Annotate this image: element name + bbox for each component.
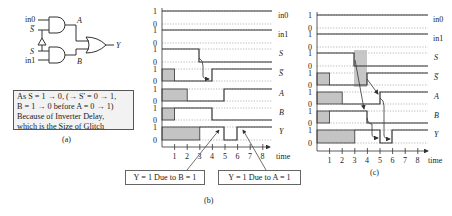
svg-text:1: 1: [173, 152, 177, 161]
svg-text:8: 8: [416, 156, 420, 165]
svg-text:Y: Y: [279, 127, 285, 136]
svg-text:1: 1: [153, 26, 157, 35]
svg-text:1: 1: [153, 85, 157, 94]
svg-text:1: 1: [308, 107, 312, 116]
svg-text:6: 6: [391, 156, 395, 165]
svg-text:B: B: [434, 111, 439, 120]
svg-text:in1: in1: [433, 34, 443, 43]
svg-text:7: 7: [403, 156, 407, 165]
timing-diagram-c: [317, 12, 428, 154]
callout-y-due-to-a: Y = 1 Due to A = 1: [218, 170, 301, 185]
svg-text:S̅: S̅: [434, 73, 439, 82]
gate-output-b: B: [77, 57, 82, 66]
caption-a: (a): [62, 135, 71, 144]
timing-diagram-b: [162, 8, 272, 170]
svg-text:1: 1: [328, 156, 332, 165]
svg-text:A: A: [433, 92, 439, 101]
svg-text:1: 1: [308, 49, 312, 58]
note-line: As S = 1 → 0, (→ S' = 0 → 1,: [17, 92, 130, 102]
svg-text:1: 1: [308, 69, 312, 78]
inverter-icon: [38, 38, 46, 45]
x-tick-labels-c: 1 2 3 4 5 6 7 8 time: [328, 156, 443, 165]
svg-text:1: 1: [153, 123, 157, 132]
circuit-schematic: [38, 17, 114, 63]
svg-text:4: 4: [365, 156, 369, 165]
svg-text:3: 3: [198, 152, 202, 161]
svg-text:1: 1: [153, 65, 157, 74]
circuit-output-y: Y: [116, 41, 122, 50]
svg-text:Y: Y: [434, 130, 440, 139]
note-line: Because of Inverter Delay,: [17, 112, 130, 122]
callout-y-due-to-b: Y = 1 Due to B = 1: [125, 170, 205, 185]
or-gate-icon: [86, 37, 106, 53]
input-label-in1: in1: [25, 56, 35, 65]
svg-text:0: 0: [308, 139, 312, 148]
and-gate-b-icon: [49, 47, 65, 63]
glitch-explanation-box: As S = 1 → 0, (→ S' = 0 → 1, B = 1 → 0 b…: [13, 90, 134, 130]
svg-text:2: 2: [185, 152, 189, 161]
svg-text:0: 0: [153, 136, 157, 145]
svg-text:1: 1: [153, 7, 157, 16]
svg-text:1: 1: [308, 11, 312, 20]
signal-labels-b: in0 in1 S S̅ A B Y: [278, 11, 288, 136]
svg-text:8: 8: [261, 152, 265, 161]
svg-text:S: S: [279, 49, 283, 58]
note-line: B = 1 → 0 before A = 0 → 1): [17, 102, 130, 112]
svg-text:1: 1: [153, 45, 157, 54]
input-label-s: S: [30, 47, 34, 56]
svg-text:6: 6: [236, 152, 240, 161]
input-label-in0: in0: [25, 15, 35, 24]
glitch-highlight-region: [354, 50, 367, 87]
gate-output-a: A: [76, 16, 82, 25]
level-labels-b: 10 10 10 10 10 10 10: [153, 7, 157, 145]
caption-b: (b): [204, 196, 213, 205]
signal-labels-c: in0 in1 S S̅ A B Y: [433, 15, 443, 139]
svg-text:4: 4: [210, 152, 214, 161]
svg-text:7: 7: [248, 152, 252, 161]
svg-text:S: S: [434, 53, 438, 62]
svg-text:1: 1: [308, 88, 312, 97]
x-axis-label-b: time: [276, 152, 291, 161]
note-line: which is the Size of Glitch: [17, 122, 130, 132]
and-gate-a-icon: [49, 17, 65, 33]
svg-text:in1: in1: [278, 30, 288, 39]
svg-text:1: 1: [308, 126, 312, 135]
svg-text:1: 1: [153, 104, 157, 113]
svg-text:1: 1: [308, 30, 312, 39]
input-label-s-bar: S̅: [30, 25, 35, 34]
svg-text:5: 5: [378, 156, 382, 165]
svg-text:5: 5: [223, 152, 227, 161]
x-tick-labels-b: 1 2 3 4 5 6 7 8 time: [173, 152, 291, 161]
level-labels-c: 10 10 10 10 10 10 10: [308, 11, 312, 148]
x-axis-label-c: time: [428, 156, 443, 165]
svg-text:A: A: [278, 89, 284, 98]
caption-c: (c): [370, 168, 379, 177]
svg-text:S̅: S̅: [279, 69, 284, 78]
svg-text:2: 2: [340, 156, 344, 165]
svg-text:in0: in0: [278, 11, 288, 20]
svg-text:B: B: [279, 108, 284, 117]
svg-text:3: 3: [353, 156, 357, 165]
svg-text:in0: in0: [433, 15, 443, 24]
